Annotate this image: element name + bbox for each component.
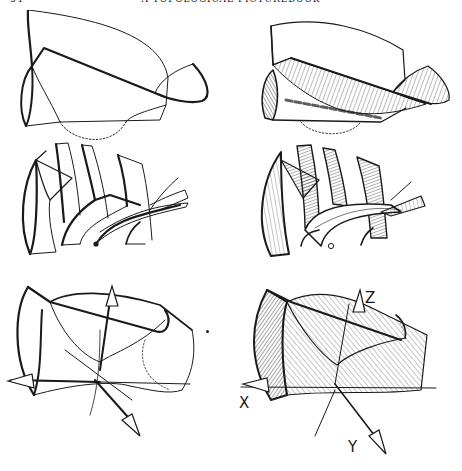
figure-folded-surface-outline (0, 10, 231, 140)
ribbons-shaded-drawing (231, 140, 462, 270)
folded-surface-shaded-drawing (231, 10, 462, 140)
folded-surface-outline-drawing (0, 10, 231, 140)
running-head: 54 A TOPOLOGICAL PICTUREBOOK (0, 0, 462, 6)
book-title: A TOPOLOGICAL PICTUREBOOK (0, 0, 462, 4)
axis-label-y: Y (347, 438, 358, 456)
figure-ribbons-outline (0, 140, 231, 270)
saddle-shaded-drawing: Z X Y (231, 270, 462, 471)
figure-saddle-outline (0, 270, 240, 471)
saddle-outline-drawing (0, 270, 240, 471)
figure-ribbons-shaded (231, 140, 462, 270)
figure-saddle-shaded: Z X Y (231, 270, 462, 471)
axis-label-x: X (239, 394, 249, 412)
figure-folded-surface-shaded (231, 10, 462, 140)
axis-label-z: Z (365, 289, 375, 307)
stray-ink-dot (206, 330, 209, 333)
ribbons-outline-drawing (0, 140, 231, 270)
